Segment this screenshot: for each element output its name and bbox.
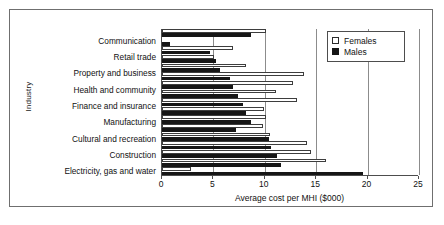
bar-males <box>162 51 210 55</box>
bar-females <box>162 72 304 76</box>
bar-row <box>162 124 419 128</box>
bar-row <box>162 81 419 85</box>
bar-females <box>162 55 214 59</box>
x-axis-ticks: 0510152025 <box>161 176 418 190</box>
bar-females <box>162 150 311 154</box>
bar-row <box>162 107 419 111</box>
category-label: Retail trade <box>114 52 156 62</box>
bar-row <box>162 85 419 89</box>
bar-row <box>162 128 419 132</box>
bar-males <box>162 68 220 72</box>
bar-row <box>162 68 419 72</box>
bar-males <box>162 128 236 132</box>
category-label: Cultural and recreation <box>72 134 156 144</box>
bar-row <box>162 163 419 167</box>
tick-label: 20 <box>362 179 371 189</box>
bar-males <box>162 85 233 89</box>
gridline-25 <box>419 29 420 175</box>
tick-label: 5 <box>210 179 215 189</box>
tick-label: 0 <box>159 179 164 189</box>
category-label-column: CommunicationRetail tradeProperty and bu… <box>20 29 158 176</box>
bar-females <box>162 133 270 137</box>
bar-males <box>162 120 251 124</box>
legend-swatch-males-icon <box>332 48 339 55</box>
bar-row <box>162 64 419 68</box>
chart-screenshot: Industry CommunicationRetail tradeProper… <box>0 0 444 225</box>
bar-row <box>162 111 419 115</box>
x-axis-title: Average cost per MHI ($000) <box>161 193 418 203</box>
bar-row <box>162 172 419 176</box>
bar-row <box>162 94 419 98</box>
bar-females <box>162 46 233 50</box>
tick-label: 15 <box>310 179 319 189</box>
bar-females <box>162 167 191 171</box>
bar-row <box>162 150 419 154</box>
bar-row <box>162 115 419 119</box>
bar-females <box>162 64 246 68</box>
bar-males <box>162 33 251 37</box>
bar-females <box>162 29 266 33</box>
bar-row <box>162 141 419 145</box>
category-label: Finance and insurance <box>72 101 156 111</box>
bar-row <box>162 98 419 102</box>
category-label: Health and community <box>73 85 156 95</box>
bar-row <box>162 159 419 163</box>
legend-label-females: Females <box>344 36 377 46</box>
bar-males <box>162 77 230 81</box>
bar-row <box>162 77 419 81</box>
bar-females <box>162 159 326 163</box>
category-label: Construction <box>109 150 156 160</box>
bar-females <box>162 115 266 119</box>
bar-males <box>162 59 216 63</box>
bar-males <box>162 146 271 150</box>
bar-row <box>162 103 419 107</box>
bar-row <box>162 167 419 171</box>
bar-row <box>162 146 419 150</box>
bar-males <box>162 94 238 98</box>
legend-label-males: Males <box>344 47 367 57</box>
bar-females <box>162 107 264 111</box>
bar-males <box>162 111 246 115</box>
bar-males <box>162 137 269 141</box>
bar-row <box>162 120 419 124</box>
bar-males <box>162 172 363 176</box>
tick-label: 25 <box>413 179 422 189</box>
bar-females <box>162 98 297 102</box>
bar-females <box>162 90 276 94</box>
bar-females <box>162 124 263 128</box>
bar-females <box>162 141 307 145</box>
bar-males <box>162 163 281 167</box>
tick-label: 10 <box>259 179 268 189</box>
legend: Females Males <box>327 31 405 62</box>
bar-row <box>162 137 419 141</box>
category-label: Manufacturing <box>103 117 156 127</box>
bar-row <box>162 90 419 94</box>
bar-males <box>162 103 243 107</box>
bar-males <box>162 42 170 46</box>
legend-swatch-females-icon <box>332 37 339 44</box>
category-label: Electricity, gas and water <box>64 166 156 176</box>
legend-item-females: Females <box>332 35 400 46</box>
bar-row <box>162 154 419 158</box>
category-label: Property and business <box>73 68 156 78</box>
category-label: Communication <box>98 36 156 46</box>
bar-males <box>162 154 277 158</box>
bar-row <box>162 133 419 137</box>
legend-item-males: Males <box>332 46 400 57</box>
bar-females <box>162 81 293 85</box>
bar-row <box>162 72 419 76</box>
